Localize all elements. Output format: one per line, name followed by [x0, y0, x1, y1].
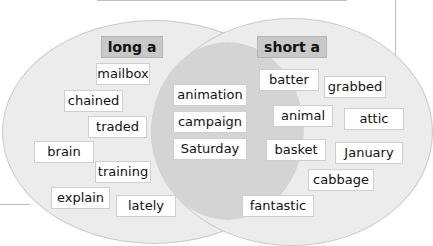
word-card: brain: [34, 141, 94, 163]
word-card: animation: [173, 84, 247, 106]
word-card: basket: [266, 139, 326, 161]
word-card: campaign: [173, 111, 247, 133]
short-a-header: short a: [257, 36, 327, 58]
word-card: explain: [51, 187, 110, 209]
frame-left-bottom-line: [0, 204, 30, 206]
word-card: batter: [259, 69, 319, 91]
word-card: attic: [344, 108, 404, 130]
word-card: fantastic: [242, 195, 314, 217]
word-card: chained: [64, 90, 123, 112]
word-card: lately: [116, 195, 176, 217]
word-card: training: [95, 161, 151, 183]
word-card: animal: [273, 105, 333, 127]
word-card: grabbed: [324, 76, 386, 98]
word-card: January: [335, 142, 403, 164]
long-a-header: long a: [101, 36, 163, 58]
word-card: mailbox: [96, 63, 150, 85]
word-card: Saturday: [173, 138, 247, 160]
word-card: cabbage: [308, 169, 374, 191]
word-card: traded: [88, 116, 147, 138]
frame-top-line: [97, 0, 347, 2]
